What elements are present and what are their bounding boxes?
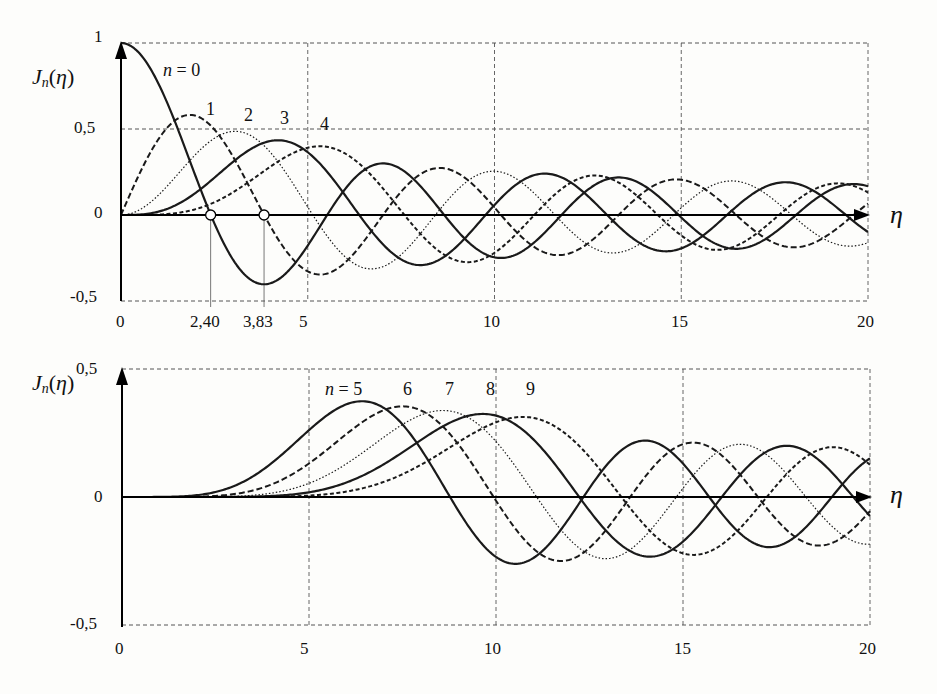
bottom-ytick-0.5: 0,5 xyxy=(76,360,97,377)
top-xtick-3.83: 3,83 xyxy=(243,313,273,330)
top-xtick-15: 15 xyxy=(671,313,688,330)
top-series-label-n4: 4 xyxy=(320,115,329,133)
top-ytick-0: 0 xyxy=(94,204,103,221)
top-ytick-0.5: 0,5 xyxy=(74,119,95,136)
bottom-xtick-10: 10 xyxy=(484,640,501,657)
top-xtick-0: 0 xyxy=(116,313,125,330)
top-y-axis-label: Jn(η) xyxy=(32,64,74,91)
bottom-series-label-n5: n = 5 xyxy=(325,380,362,398)
top-series-label-n2: 2 xyxy=(244,106,253,124)
bottom-ytick-minus0.5: -0,5 xyxy=(70,615,97,632)
bottom-series-label-n8: 8 xyxy=(486,380,495,398)
bottom-x-axis-label: η xyxy=(890,480,903,510)
top-series-label-n3: 3 xyxy=(280,109,289,127)
top-xtick-2.40: 2,40 xyxy=(190,313,220,330)
top-zero-marker xyxy=(206,210,216,220)
bottom-ytick-0: 0 xyxy=(94,488,103,505)
bottom-series-label-n7: 7 xyxy=(445,380,454,398)
bessel-chart xyxy=(0,0,937,694)
bottom-series-label-n6: 6 xyxy=(403,380,412,398)
top-xtick-5: 5 xyxy=(299,313,308,330)
top-xtick-20: 20 xyxy=(857,313,874,330)
top-ytick-1: 1 xyxy=(94,28,103,45)
bottom-y-axis-label: Jn(η) xyxy=(32,370,74,397)
bottom-xtick-20: 20 xyxy=(859,640,876,657)
top-series-label-n0: n = 0 xyxy=(163,61,200,79)
top-xtick-10: 10 xyxy=(483,313,500,330)
bottom-xtick-15: 15 xyxy=(674,640,691,657)
bottom-series-label-n9: 9 xyxy=(526,380,535,398)
top-series-label-n1: 1 xyxy=(206,100,215,118)
top-curve-n1 xyxy=(121,115,868,275)
top-x-axis-label: η xyxy=(890,200,903,230)
bottom-x-axis-arrow-icon xyxy=(856,491,872,503)
top-ytick-minus0.5: -0,5 xyxy=(70,288,97,305)
bottom-xtick-0: 0 xyxy=(115,640,124,657)
bottom-y-axis-arrow-icon xyxy=(116,367,128,385)
top-zero-marker xyxy=(259,210,269,220)
bottom-xtick-5: 5 xyxy=(300,640,309,657)
